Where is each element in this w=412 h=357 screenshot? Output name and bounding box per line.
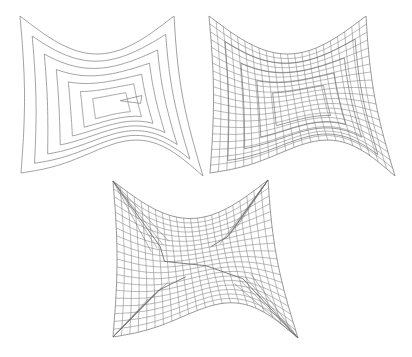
quad-mesh-spiral-panel <box>209 16 395 176</box>
diagram-canvas <box>0 0 412 357</box>
mesh-diagram <box>0 0 412 357</box>
quad-mesh-singularities-panel <box>113 180 298 338</box>
spiral-toolpath-panel <box>20 16 203 176</box>
